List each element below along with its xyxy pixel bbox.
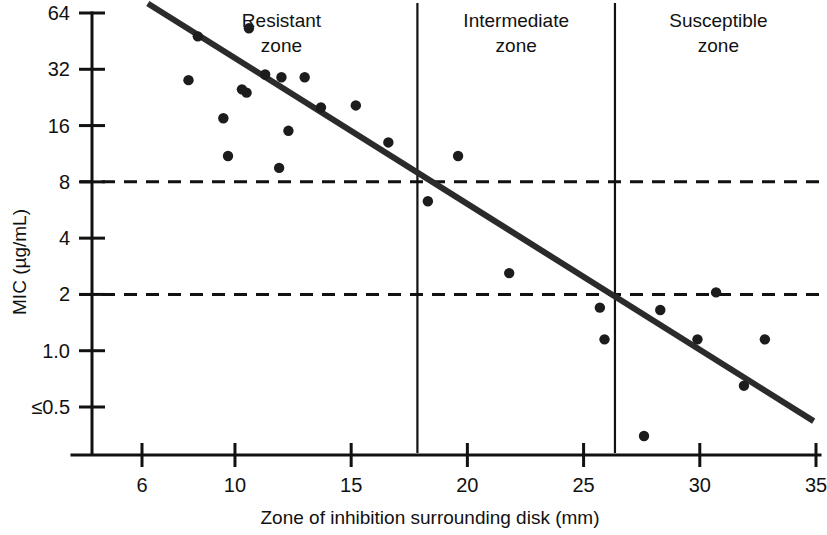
- data-point-7: [260, 69, 270, 79]
- regression-line: [148, 3, 814, 421]
- x-tick-label-5: 30: [689, 474, 711, 496]
- y-axis-title: MIC (µg/mL): [9, 209, 30, 315]
- data-point-16: [453, 151, 463, 161]
- scatter-points-group: [183, 23, 770, 441]
- regression-line-group: [148, 3, 814, 421]
- zone-label-intermediate-line1: Intermediate: [463, 10, 569, 31]
- x-tick-label-0: 6: [136, 474, 147, 496]
- data-point-1: [193, 31, 203, 41]
- data-point-19: [599, 334, 609, 344]
- y-tick-label-5: 2: [59, 283, 70, 305]
- y-axis-tick-labels: 6432168421.0≤0.5: [31, 2, 70, 418]
- mic-vs-zone-scatter-chart: 6432168421.0≤0.5 6101520253035 Resistant…: [0, 0, 827, 535]
- y-tick-label-2: 16: [48, 115, 70, 137]
- data-point-3: [223, 151, 233, 161]
- x-tick-label-2: 15: [340, 474, 362, 496]
- x-axis-title: Zone of inhibition surrounding disk (mm): [261, 507, 600, 528]
- zone-label-susceptible: Susceptiblezone: [669, 10, 767, 56]
- data-point-13: [351, 100, 361, 110]
- data-point-10: [283, 126, 293, 136]
- data-point-15: [423, 196, 433, 206]
- data-point-8: [274, 163, 284, 173]
- y-tick-label-1: 32: [48, 58, 70, 80]
- x-tick-label-4: 25: [572, 474, 594, 496]
- chart-canvas: 6432168421.0≤0.5 6101520253035 Resistant…: [0, 0, 827, 535]
- x-tick-label-6: 35: [805, 474, 827, 496]
- zone-label-resistant-line2: zone: [261, 35, 302, 56]
- y-tick-label-3: 8: [59, 171, 70, 193]
- data-point-21: [655, 305, 665, 315]
- zone-label-susceptible-line1: Susceptible: [669, 10, 767, 31]
- data-point-6: [244, 23, 254, 33]
- data-point-22: [692, 334, 702, 344]
- data-point-18: [595, 302, 605, 312]
- mic-breakpoint-lines: [80, 182, 820, 295]
- zone-label-intermediate: Intermediatezone: [463, 10, 569, 56]
- data-point-14: [383, 137, 393, 147]
- zone-label-susceptible-line2: zone: [698, 35, 739, 56]
- y-tick-label-4: 4: [59, 227, 70, 249]
- x-tick-label-3: 20: [456, 474, 478, 496]
- x-axis-tick-labels: 6101520253035: [136, 474, 827, 496]
- data-point-11: [299, 72, 309, 82]
- data-point-2: [218, 113, 228, 123]
- y-tick-label-0: 64: [48, 2, 70, 24]
- data-point-5: [241, 87, 251, 97]
- data-point-9: [276, 72, 286, 82]
- data-point-12: [316, 102, 326, 112]
- y-tick-label-7: ≤0.5: [31, 396, 70, 418]
- zone-label-intermediate-line2: zone: [496, 35, 537, 56]
- y-tick-label-6: 1.0: [42, 340, 70, 362]
- zone-label-resistant: Resistantzone: [242, 10, 322, 56]
- data-point-0: [183, 75, 193, 85]
- data-point-25: [760, 334, 770, 344]
- data-point-17: [504, 268, 514, 278]
- zone-divider-lines: [417, 3, 615, 453]
- data-point-24: [739, 380, 749, 390]
- data-point-20: [639, 431, 649, 441]
- interpretive-zone-labels: ResistantzoneIntermediatezoneSusceptible…: [242, 10, 768, 56]
- data-point-23: [711, 287, 721, 297]
- x-tick-label-1: 10: [224, 474, 246, 496]
